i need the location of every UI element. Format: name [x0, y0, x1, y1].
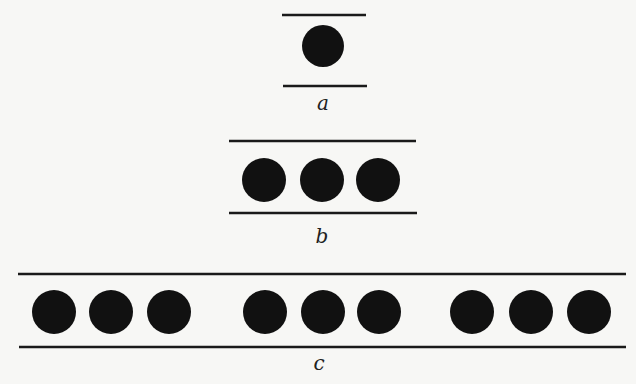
particle-circle [32, 290, 76, 334]
particle-circle [509, 290, 553, 334]
particle-circle [89, 290, 133, 334]
panel-label: a [317, 91, 329, 115]
particle-circle [357, 290, 401, 334]
diagram-canvas: abc [0, 0, 636, 384]
panel-a: a [282, 15, 367, 115]
particle-circle [356, 158, 400, 202]
particle-circle [243, 290, 287, 334]
panel-c: c [18, 274, 626, 375]
particle-circle [450, 290, 494, 334]
particle-circle [300, 158, 344, 202]
particle-circle [147, 290, 191, 334]
panel-label: b [316, 224, 329, 248]
particle-circle [242, 158, 286, 202]
particle-circle [567, 290, 611, 334]
panel-b: b [229, 141, 417, 248]
particle-circle [301, 290, 345, 334]
panel-label: c [313, 351, 324, 375]
particle-circle [302, 25, 344, 67]
